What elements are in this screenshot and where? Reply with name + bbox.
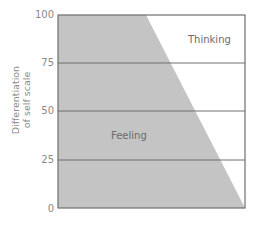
feeling-label: Feeling bbox=[111, 130, 147, 141]
chart: 100 75 50 25 0 Differentiation of self s… bbox=[0, 0, 256, 226]
y-axis-label-line2: of self scale bbox=[21, 66, 32, 134]
y-tick-25: 25 bbox=[24, 154, 54, 165]
y-tick-100: 100 bbox=[24, 9, 54, 20]
y-axis-label: Differentiation of self scale bbox=[3, 50, 39, 150]
y-axis-label-line1: Differentiation bbox=[10, 66, 21, 134]
y-tick-0: 0 bbox=[24, 203, 54, 214]
thinking-label: Thinking bbox=[188, 34, 231, 45]
